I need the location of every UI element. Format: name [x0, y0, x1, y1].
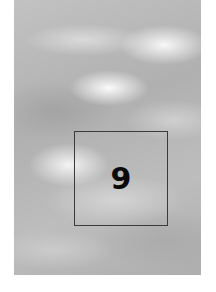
- number-frame: 9: [74, 131, 168, 226]
- cloud-sky-image: 9: [14, 0, 201, 275]
- number-label: 9: [75, 132, 167, 225]
